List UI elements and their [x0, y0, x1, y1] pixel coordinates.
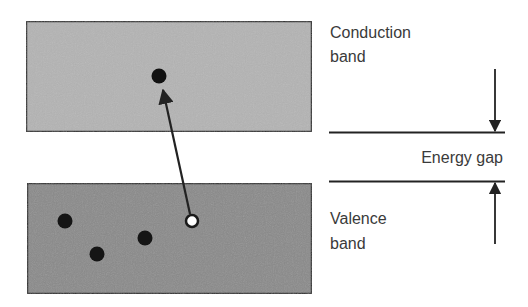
- valence-electron: [90, 247, 105, 262]
- valence-band-box: [27, 183, 312, 294]
- conduction-electron: [152, 69, 167, 84]
- valence-hole: [186, 215, 198, 227]
- valence-electron: [138, 231, 153, 246]
- conduction-band-label: Conduction: [330, 24, 411, 41]
- valence-band-label: Valence: [330, 210, 387, 227]
- band-gap-diagram: Conduction band Energy gap Valence band: [0, 0, 528, 307]
- valence-electron: [58, 214, 73, 229]
- conduction-band-label-2: band: [330, 48, 366, 65]
- energy-gap-label: Energy gap: [421, 149, 503, 166]
- valence-band-label-2: band: [330, 235, 366, 252]
